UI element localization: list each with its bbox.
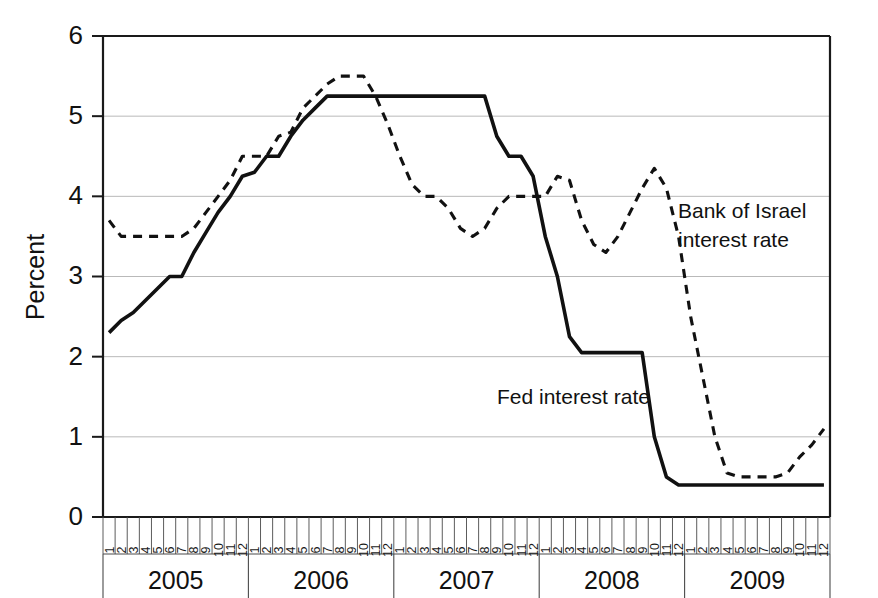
y-tick-label-2: 2 — [69, 341, 83, 371]
year-label-2006: 2006 — [293, 566, 349, 594]
y-tick-label-1: 1 — [69, 421, 83, 451]
y-tick-label-3: 3 — [69, 260, 83, 290]
y-tick-label-0: 0 — [69, 501, 83, 531]
y-axis-tick-labels: 0123456 — [69, 20, 83, 531]
year-label-2009: 2009 — [729, 566, 785, 594]
gridlines — [103, 36, 830, 517]
interest-rate-chart: 0123456 Percent 123456789101112123456789… — [0, 0, 878, 598]
y-tick-label-6: 6 — [69, 20, 83, 50]
y-tick-label-5: 5 — [69, 100, 83, 130]
year-labels: 20052006200720082009 — [148, 566, 785, 594]
y-tick-label-4: 4 — [69, 180, 83, 210]
month-tick-labels: 1234567891011121234567891011121234567891… — [103, 543, 832, 557]
year-label-2007: 2007 — [439, 566, 495, 594]
chart-canvas: 0123456 Percent 123456789101112123456789… — [0, 0, 878, 598]
fed-annotation: Fed interest rate — [497, 385, 650, 408]
month-label-2009-12: 12 — [817, 543, 831, 557]
series-line-fed — [109, 96, 824, 485]
y-axis-ticks — [92, 36, 103, 517]
year-label-2005: 2005 — [148, 566, 204, 594]
bank-of-israel-annotation-line2: interest rate — [678, 228, 789, 251]
y-axis-title: Percent — [21, 234, 49, 320]
bank-of-israel-annotation-line1: Bank of Israel — [678, 199, 806, 222]
year-label-2008: 2008 — [584, 566, 640, 594]
